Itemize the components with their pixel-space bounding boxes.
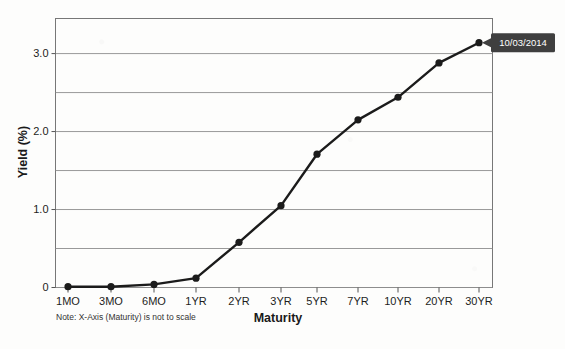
data-point[interactable] [64,283,71,290]
date-tooltip-badge[interactable]: 10/03/2014 [482,33,555,52]
x-tick-label: 1MO [56,295,80,307]
y-tick-label: 1.0 [33,203,48,215]
x-tick-label: 1YR [185,295,206,307]
data-point[interactable] [107,283,114,290]
data-point[interactable] [150,281,157,288]
x-tick-label: 6MO [142,295,166,307]
y-tick-label: 3.0 [33,47,48,59]
data-point[interactable] [235,239,242,246]
data-point[interactable] [313,151,320,158]
chart-svg: 01.02.03.0 1MO3MO6MO1YR2YR3YR5YR7YR10YR2… [0,0,565,349]
data-point[interactable] [277,202,284,209]
x-tick-label: 2YR [228,295,249,307]
x-tick-label: 3YR [270,295,291,307]
yield-curve-chart: 01.02.03.0 1MO3MO6MO1YR2YR3YR5YR7YR10YR2… [0,0,565,349]
y-tick-label: 2.0 [33,125,48,137]
data-point[interactable] [394,94,401,101]
tooltip-label: 10/03/2014 [499,37,547,48]
x-tick-label: 30YR [465,295,493,307]
x-tick-label: 7YR [347,295,368,307]
x-tick-label: 3MO [99,295,123,307]
data-point[interactable] [354,116,361,123]
y-axis-title: Yield (%) [16,126,30,178]
x-tick-label: 10YR [384,295,412,307]
x-axis-title: Maturity [254,311,303,325]
data-point[interactable] [192,275,199,282]
chart-note: Note: X-Axis (Maturity) is not to scale [56,312,196,322]
x-tick-label: 5YR [306,295,327,307]
data-point[interactable] [475,39,482,46]
x-axis-tick-labels: 1MO3MO6MO1YR2YR3YR5YR7YR10YR20YR30YR [56,295,493,307]
x-tick-label: 20YR [425,295,453,307]
y-tick-label: 0 [42,281,48,293]
data-point[interactable] [435,59,442,66]
